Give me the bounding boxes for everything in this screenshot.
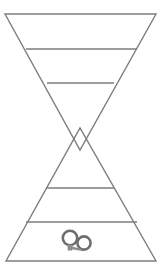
diagram-canvas (0, 0, 164, 279)
hourglass-figure (0, 0, 164, 279)
